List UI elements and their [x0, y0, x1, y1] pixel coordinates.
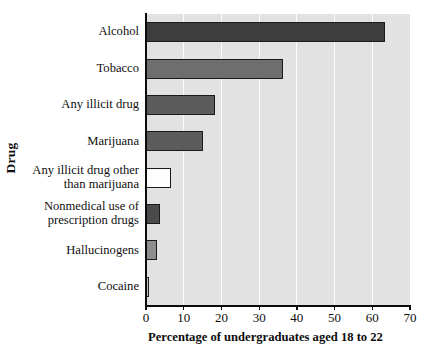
gridline	[372, 14, 373, 305]
gridline	[334, 14, 335, 305]
x-axis-title: Percentage of undergraduates aged 18 to …	[100, 330, 431, 345]
y-tick-label-line: Cocaine	[0, 280, 139, 294]
plot-area	[146, 14, 410, 305]
y-tick-label-hallucinogens: Hallucinogens	[0, 244, 139, 258]
y-tick-label-line: Nonmedical use of	[0, 200, 139, 214]
y-tick-label-line: than marijuana	[0, 178, 139, 192]
bar-marijuana	[146, 131, 203, 151]
bar-nonmedical-use-of-prescription-drugs	[146, 204, 160, 224]
y-tick-label-line: Marijuana	[0, 135, 139, 149]
y-tick-label-line: Alcohol	[0, 25, 139, 39]
y-tick-label-line: Any illicit drug	[0, 98, 139, 112]
x-tick-label-70: 70	[390, 310, 430, 326]
y-tick-label-cocaine: Cocaine	[0, 280, 139, 294]
y-tick-label-line: prescription drugs	[0, 214, 139, 228]
bar-chart-figure: Drug AlcoholTobaccoAny illicit drugMarij…	[0, 0, 431, 353]
x-tick-label-60: 60	[352, 310, 392, 326]
y-tick-label-nonmedical-use-of-prescription-drugs: Nonmedical use ofprescription drugs	[0, 200, 139, 227]
y-tick-label-line: Any illicit drug other	[0, 164, 139, 178]
bar-hallucinogens	[146, 240, 157, 260]
x-tick-label-0: 0	[126, 310, 166, 326]
gridline	[410, 14, 411, 305]
y-tick-label-alcohol: Alcohol	[0, 25, 139, 39]
bar-any-illicit-drug	[146, 95, 215, 115]
y-tick-label-line: Tobacco	[0, 62, 139, 76]
y-tick-label-any-illicit-drug: Any illicit drug	[0, 98, 139, 112]
x-tick-label-20: 20	[201, 310, 241, 326]
bar-tobacco	[146, 59, 283, 79]
y-axis-line	[145, 13, 147, 306]
y-tick-label-line: Hallucinogens	[0, 244, 139, 258]
x-tick-label-30: 30	[239, 310, 279, 326]
bar-alcohol	[146, 22, 385, 42]
gridline	[296, 14, 297, 305]
x-tick-label-50: 50	[315, 310, 355, 326]
y-tick-label-marijuana: Marijuana	[0, 135, 139, 149]
x-tick-label-10: 10	[164, 310, 204, 326]
y-tick-label-any-illicit-drug-other-than-marijuana: Any illicit drug otherthan marijuana	[0, 164, 139, 191]
x-tick-label-40: 40	[277, 310, 317, 326]
y-axis-tick-labels: AlcoholTobaccoAny illicit drugMarijuanaA…	[0, 14, 142, 305]
bar-any-illicit-drug-other-than-marijuana	[146, 168, 171, 188]
y-tick-label-tobacco: Tobacco	[0, 62, 139, 76]
